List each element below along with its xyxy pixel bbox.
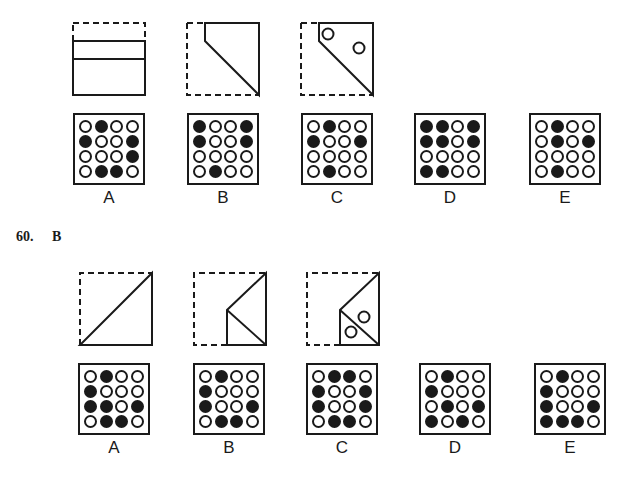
empty-hole-dot: [456, 400, 469, 413]
punched-hole: [359, 312, 370, 323]
empty-hole-dot: [451, 120, 464, 133]
filled-hole-dot: [100, 370, 113, 383]
empty-hole-dot: [110, 120, 123, 133]
empty-hole-dot: [556, 400, 569, 413]
p59-fold-step-3: [300, 22, 376, 98]
empty-hole-dot: [209, 120, 222, 133]
empty-hole-dot: [451, 150, 464, 163]
empty-hole-dot: [535, 120, 548, 133]
filled-hole-dot: [100, 415, 113, 428]
filled-hole-dot: [587, 400, 600, 413]
empty-hole-dot: [556, 385, 569, 398]
filled-hole-dot: [323, 165, 336, 178]
filled-hole-dot: [79, 135, 92, 148]
empty-hole-dot: [110, 135, 123, 148]
empty-hole-dot: [535, 150, 548, 163]
p59-option-a[interactable]: [73, 113, 145, 185]
filled-hole-dot: [323, 120, 336, 133]
empty-hole-dot: [131, 370, 144, 383]
empty-hole-dot: [441, 415, 454, 428]
p59-option-a-label: A: [73, 188, 145, 208]
p60-fold-step-3: [306, 272, 382, 348]
filled-hole-dot: [441, 400, 454, 413]
empty-hole-dot: [95, 150, 108, 163]
p60-option-c[interactable]: [306, 363, 378, 435]
empty-hole-dot: [566, 135, 579, 148]
filled-hole-dot: [441, 370, 454, 383]
p60-option-a-label: A: [78, 438, 150, 458]
filled-hole-dot: [193, 120, 206, 133]
p60-fold-step-2: [193, 272, 269, 348]
empty-hole-dot: [328, 385, 341, 398]
empty-hole-dot: [472, 415, 485, 428]
empty-hole-dot: [587, 385, 600, 398]
empty-hole-dot: [571, 400, 584, 413]
empty-hole-dot: [571, 385, 584, 398]
filled-hole-dot: [110, 165, 123, 178]
filled-hole-dot: [551, 120, 564, 133]
empty-hole-dot: [193, 150, 206, 163]
empty-hole-dot: [587, 415, 600, 428]
empty-hole-dot: [587, 370, 600, 383]
filled-hole-dot: [312, 400, 325, 413]
filled-hole-dot: [115, 415, 128, 428]
empty-hole-dot: [79, 150, 92, 163]
empty-hole-dot: [472, 370, 485, 383]
filled-hole-dot: [540, 385, 553, 398]
filled-hole-dot: [556, 370, 569, 383]
filled-hole-dot: [425, 385, 438, 398]
p60-option-e[interactable]: [534, 363, 606, 435]
p59-option-b[interactable]: [187, 113, 259, 185]
filled-hole-dot: [126, 150, 139, 163]
empty-hole-dot: [224, 135, 237, 148]
empty-hole-dot: [246, 370, 259, 383]
filled-hole-dot: [551, 165, 564, 178]
filled-hole-dot: [420, 135, 433, 148]
p60-option-b[interactable]: [193, 363, 265, 435]
filled-hole-dot: [131, 400, 144, 413]
empty-hole-dot: [115, 385, 128, 398]
filled-hole-dot: [307, 135, 320, 148]
filled-hole-dot: [215, 370, 228, 383]
empty-hole-dot: [84, 370, 97, 383]
empty-hole-dot: [95, 135, 108, 148]
p59-option-e-label: E: [529, 188, 601, 208]
filled-hole-dot: [436, 135, 449, 148]
empty-hole-dot: [115, 400, 128, 413]
empty-hole-dot: [246, 415, 259, 428]
p59-option-e[interactable]: [529, 113, 601, 185]
empty-hole-dot: [425, 400, 438, 413]
filled-hole-dot: [359, 385, 372, 398]
empty-hole-dot: [307, 120, 320, 133]
empty-hole-dot: [79, 165, 92, 178]
empty-hole-dot: [467, 165, 480, 178]
empty-hole-dot: [354, 165, 367, 178]
empty-hole-dot: [307, 150, 320, 163]
p60-option-c-label: C: [306, 438, 378, 458]
p59-option-d-label: D: [414, 188, 486, 208]
p60-option-a[interactable]: [78, 363, 150, 435]
answer-key: B: [52, 229, 61, 245]
empty-hole-dot: [246, 385, 259, 398]
empty-hole-dot: [199, 370, 212, 383]
empty-hole-dot: [224, 120, 237, 133]
p59-option-d[interactable]: [414, 113, 486, 185]
empty-hole-dot: [359, 370, 372, 383]
empty-hole-dot: [215, 400, 228, 413]
empty-hole-dot: [425, 370, 438, 383]
p59-option-c[interactable]: [301, 113, 373, 185]
filled-hole-dot: [571, 415, 584, 428]
p60-option-d[interactable]: [419, 363, 491, 435]
empty-hole-dot: [451, 165, 464, 178]
filled-hole-dot: [436, 165, 449, 178]
empty-hole-dot: [535, 135, 548, 148]
empty-hole-dot: [582, 150, 595, 163]
filled-hole-dot: [230, 415, 243, 428]
empty-hole-dot: [199, 415, 212, 428]
filled-hole-dot: [359, 400, 372, 413]
filled-hole-dot: [209, 165, 222, 178]
p60-option-d-label: D: [419, 438, 491, 458]
empty-hole-dot: [230, 370, 243, 383]
filled-hole-dot: [420, 120, 433, 133]
filled-hole-dot: [95, 120, 108, 133]
